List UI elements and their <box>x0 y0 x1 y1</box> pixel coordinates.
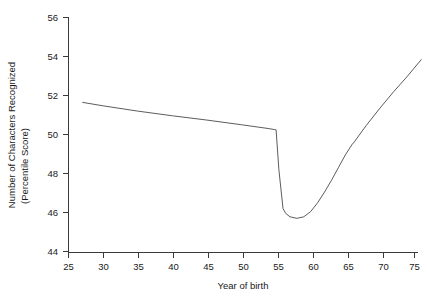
x-tick-label-60: 60 <box>308 261 319 272</box>
x-axis-ticks <box>69 253 415 259</box>
x-tick-label-40: 40 <box>168 261 179 272</box>
y-tick-label-46: 46 <box>47 207 58 218</box>
y-tick-label-52: 52 <box>47 90 58 101</box>
x-tick-labels: 25 30 35 40 45 50 55 60 65 70 75 <box>63 261 420 272</box>
x-tick-label-30: 30 <box>98 261 109 272</box>
y-tick-label-56: 56 <box>47 12 58 23</box>
x-tick-label-45: 45 <box>203 261 214 272</box>
x-tick-label-50: 50 <box>238 261 249 272</box>
x-axis-title: Year of birth <box>218 280 269 291</box>
y-axis-title-line2: (Percentile Score) <box>19 128 30 204</box>
data-series-line <box>82 59 421 218</box>
x-tick-label-75: 75 <box>409 261 420 272</box>
y-tick-label-44: 44 <box>47 246 58 257</box>
y-tick-label-50: 50 <box>47 129 58 140</box>
plot-area: 56 54 52 50 48 46 44 25 30 35 40 45 <box>6 12 421 291</box>
y-tick-label-48: 48 <box>47 168 58 179</box>
chart-figure: 56 54 52 50 48 46 44 25 30 35 40 45 <box>0 0 427 299</box>
y-axis-title-line1: Number of Characters Recognized <box>6 62 17 208</box>
x-tick-label-35: 35 <box>133 261 144 272</box>
x-tick-label-25: 25 <box>63 261 74 272</box>
x-tick-label-55: 55 <box>273 261 284 272</box>
x-tick-label-70: 70 <box>378 261 389 272</box>
y-axis-ticks <box>63 18 69 252</box>
x-tick-label-65: 65 <box>343 261 354 272</box>
y-tick-label-54: 54 <box>47 51 58 62</box>
y-tick-labels: 56 54 52 50 48 46 44 <box>47 12 58 257</box>
